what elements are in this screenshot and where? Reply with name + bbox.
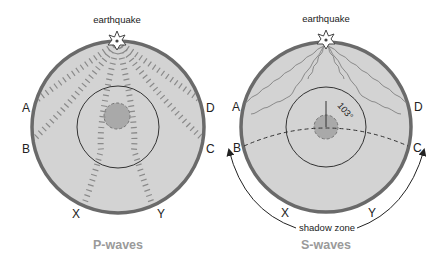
station-d-label: D (414, 100, 423, 114)
station-b-label: B (22, 142, 30, 156)
station-c-label: C (206, 142, 215, 156)
station-a-label: A (22, 101, 30, 115)
station-x-label: X (72, 207, 80, 221)
s-waves-panel: 103° earthquake A B C D X Y shadow zone … (229, 13, 424, 252)
station-y-label: Y (368, 206, 376, 220)
shadow-zone-label: shadow zone (299, 222, 355, 233)
p-waves-title: P-waves (93, 238, 143, 252)
station-b-label: B (233, 141, 241, 155)
inner-core (104, 103, 130, 129)
epicenter-label: earthquake (302, 13, 350, 24)
station-x-label: X (281, 206, 289, 220)
seismic-wave-diagram: earthquake A B C D X Y P-waves 103° (0, 0, 436, 265)
epicenter-label: earthquake (93, 14, 141, 25)
station-y-label: Y (157, 207, 165, 221)
station-d-label: D (206, 101, 215, 115)
station-c-label: C (413, 141, 422, 155)
station-a-label: A (232, 100, 240, 114)
p-waves-panel: earthquake A B C D X Y P-waves (22, 14, 215, 252)
s-waves-title: S-waves (301, 238, 351, 252)
